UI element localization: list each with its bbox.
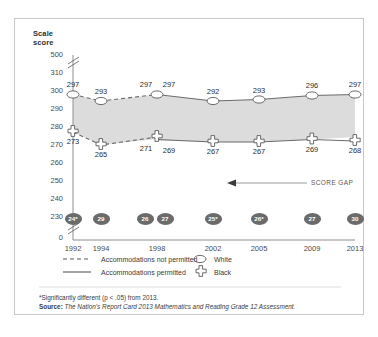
- black-label-2013: 268: [343, 147, 367, 155]
- footnote-source-text: The Nation's Report Card 2013 Mathematic…: [65, 303, 296, 310]
- legend-label-black: Black: [214, 268, 231, 277]
- legend-cross-marker-icon: [196, 266, 206, 277]
- y-tick-0: 0: [37, 234, 63, 242]
- score-gap-annotation-label: SCORE GAP: [311, 179, 353, 186]
- x-tick-2005: 2005: [244, 245, 274, 253]
- score-gap-badge-1998-solid: 27: [157, 213, 174, 225]
- legend-label-dashed: Accommodations not permitted: [101, 255, 198, 264]
- white-marker-2002: [207, 97, 219, 104]
- footnote-source-label: Source:: [39, 303, 63, 310]
- y-tick-500: 500: [37, 51, 63, 59]
- y-tick-230: 230: [37, 213, 63, 221]
- score-gap-badge-1992: 24*: [65, 213, 82, 225]
- white-label-1994: 293: [89, 88, 113, 96]
- white-label-2013: 297: [343, 81, 367, 89]
- white-label-1998-dashed: 297: [134, 81, 158, 89]
- score-gap-badge-1994: 29: [93, 213, 110, 225]
- x-tick-1998: 1998: [142, 245, 172, 253]
- footnote-source: Source: The Nation's Report Card 2013 Ma…: [39, 303, 295, 312]
- white-marker-1998a: [151, 91, 163, 98]
- white-marker-2005: [253, 96, 265, 103]
- legend-label-solid: Accommodations permitted: [101, 268, 186, 277]
- chart-figure: Scale score: [14, 18, 364, 315]
- white-label-2009: 296: [300, 82, 324, 90]
- white-label-1992: 297: [61, 81, 85, 89]
- y-tick-310: 310: [37, 69, 63, 77]
- footnote-significance: *Significantly different (p < .05) from …: [39, 294, 158, 303]
- y-tick-270: 270: [37, 141, 63, 149]
- white-marker-1992: [67, 91, 79, 98]
- black-label-1994: 265: [89, 151, 113, 159]
- black-label-1998-dashed: 271: [134, 145, 158, 153]
- black-label-1992: 273: [61, 138, 85, 146]
- black-label-1998-solid: 269: [157, 147, 181, 155]
- white-label-1998-solid: 297: [157, 81, 181, 89]
- score-gap-badge-2009: 27: [304, 213, 321, 225]
- score-gap-badge-2002: 25*: [205, 213, 222, 225]
- plot-area: [15, 19, 365, 316]
- score-gap-badge-2005: 26*: [251, 213, 268, 225]
- score-gap-arrow-icon: [227, 180, 307, 187]
- white-marker-2009: [306, 92, 318, 99]
- x-tick-1994: 1994: [86, 245, 116, 253]
- y-tick-300: 300: [37, 87, 63, 95]
- legend-label-white: White: [214, 255, 232, 264]
- x-tick-1992: 1992: [58, 245, 88, 253]
- score-gap-badge-1998-dashed: 26: [137, 213, 154, 225]
- y-tick-240: 240: [37, 195, 63, 203]
- white-label-2005: 293: [247, 87, 271, 95]
- black-label-2005: 267: [247, 148, 271, 156]
- white-label-2002: 292: [201, 88, 225, 96]
- x-tick-2002: 2002: [198, 245, 228, 253]
- y-tick-250: 250: [37, 177, 63, 185]
- x-tick-2013: 2013: [340, 245, 370, 253]
- black-label-2002: 267: [201, 148, 225, 156]
- x-tick-2009: 2009: [297, 245, 327, 253]
- y-tick-260: 260: [37, 159, 63, 167]
- y-tick-280: 280: [37, 123, 63, 131]
- score-gap-badge-2013: 30: [347, 213, 364, 225]
- white-marker-2013: [349, 91, 361, 98]
- black-label-2009: 269: [300, 146, 324, 154]
- y-tick-290: 290: [37, 105, 63, 113]
- white-marker-1994: [95, 97, 107, 104]
